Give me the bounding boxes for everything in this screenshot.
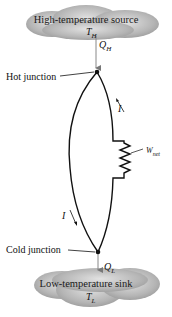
hot-junction-label: Hot junction bbox=[6, 72, 56, 82]
hot-junction-dot bbox=[95, 70, 100, 75]
source-title: High-temperature source bbox=[0, 15, 172, 26]
sink-title: Low-temperature sink bbox=[0, 279, 172, 290]
sink-temperature: TL bbox=[86, 292, 95, 305]
source-temperature: TH bbox=[86, 27, 97, 40]
heat-out-label: QL bbox=[104, 262, 115, 275]
current-label-top: I bbox=[118, 104, 121, 114]
cold-junction-label: Cold junction bbox=[6, 245, 61, 255]
left-thermocouple-leg bbox=[69, 72, 98, 252]
right-thermocouple-leg-with-load bbox=[97, 72, 130, 252]
work-arrow bbox=[131, 149, 143, 153]
heat-in-label: QH bbox=[99, 40, 111, 53]
cold-junction-dot bbox=[96, 250, 101, 255]
work-net-label: Wnet bbox=[146, 147, 160, 157]
hot-junction-leader bbox=[60, 72, 94, 76]
cold-junction-leader bbox=[68, 250, 95, 252]
diagram-canvas bbox=[0, 0, 172, 317]
current-label-bottom: I bbox=[62, 211, 65, 221]
